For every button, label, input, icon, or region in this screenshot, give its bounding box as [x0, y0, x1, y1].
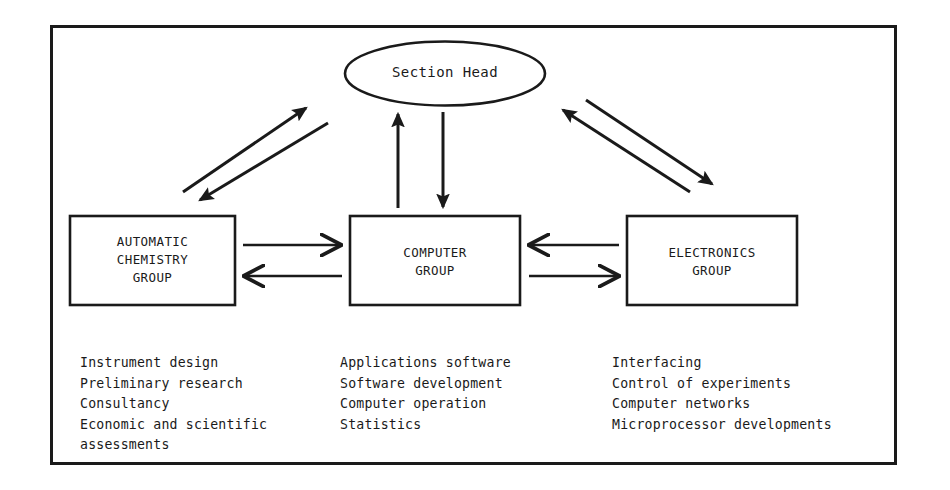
activity-line: Applications software [340, 353, 511, 374]
activity-line: Microprocessor developments [612, 415, 832, 436]
activity-line: Control of experiments [612, 374, 832, 395]
computer-group-activities: Applications softwareSoftware developmen… [340, 353, 511, 435]
connector-automatic-to-head [183, 108, 306, 192]
activity-line: Statistics [340, 415, 511, 436]
activity-line: assessments [80, 435, 267, 456]
electronics-group-box [627, 216, 797, 305]
diagram-page: Section Head AUTOMATIC CHEMISTRY GROUP C… [0, 0, 950, 490]
activity-line: Economic and scientific [80, 415, 267, 436]
electronics-group-activities: InterfacingControl of experimentsCompute… [612, 353, 832, 435]
section-head-ellipse [345, 42, 545, 106]
activity-line: Preliminary research [80, 374, 267, 395]
automatic-chemistry-group-activities: Instrument designPreliminary researchCon… [80, 353, 267, 456]
connector-electronics-to-head [563, 110, 690, 192]
activity-line: Instrument design [80, 353, 267, 374]
computer-group-box [350, 216, 520, 305]
activity-line: Computer operation [340, 394, 511, 415]
connector-head-to-automatic [200, 123, 328, 200]
activity-line: Computer networks [612, 394, 832, 415]
activity-line: Consultancy [80, 394, 267, 415]
activity-line: Software development [340, 374, 511, 395]
activity-line: Interfacing [612, 353, 832, 374]
automatic-chemistry-group-box [70, 216, 235, 305]
connector-head-to-electronics [586, 100, 712, 184]
